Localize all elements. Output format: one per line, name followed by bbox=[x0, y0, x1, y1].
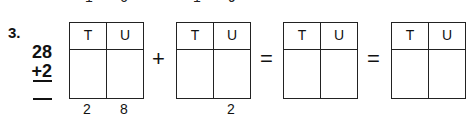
tens-header: T bbox=[284, 27, 320, 43]
problem-number: 3. bbox=[8, 24, 21, 41]
place-value-box-3[interactable]: T U bbox=[283, 22, 358, 99]
answer-blank[interactable] bbox=[33, 98, 52, 100]
addend-1: 28 bbox=[22, 42, 52, 63]
clipped-digit: 1 bbox=[85, 0, 93, 5]
sum-rule bbox=[33, 80, 52, 82]
tens-header: T bbox=[392, 27, 428, 43]
units-header: U bbox=[214, 27, 250, 43]
place-value-box-2: T U bbox=[176, 22, 251, 99]
box-1-tens-value: 2 bbox=[69, 101, 105, 117]
place-value-box-4[interactable]: T U bbox=[391, 22, 466, 99]
clipped-digit: 9 bbox=[228, 0, 236, 5]
units-header: U bbox=[321, 27, 357, 43]
tens-header: T bbox=[177, 27, 213, 43]
box-1-units-value: 8 bbox=[106, 101, 142, 117]
box-2-units-value: 2 bbox=[213, 101, 249, 117]
units-header: U bbox=[429, 27, 465, 43]
plus-sign: + bbox=[152, 46, 165, 72]
units-header: U bbox=[107, 27, 143, 43]
tens-header: T bbox=[70, 27, 106, 43]
equals-sign-1: = bbox=[260, 46, 273, 72]
equals-sign-2: = bbox=[367, 46, 380, 72]
addend-2: +2 bbox=[22, 61, 52, 82]
clipped-digit: 6 bbox=[120, 0, 128, 5]
place-value-box-1: T U bbox=[69, 22, 144, 99]
clipped-digit: 1 bbox=[193, 0, 201, 5]
